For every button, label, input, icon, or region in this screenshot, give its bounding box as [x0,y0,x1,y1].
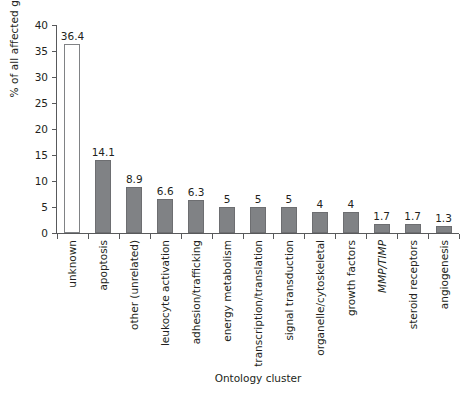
x-axis-tick-mark [212,234,213,239]
y-axis-tick-label: 20 [24,124,48,135]
x-axis-label-slot: growth factors [335,240,366,365]
bar [281,207,297,233]
bar [374,224,390,233]
x-axis-label-slot: transcription/translation [243,240,274,365]
x-axis-category-label: angiogenesis [438,240,450,309]
x-axis-category-label: steroid receptors [407,240,419,329]
bar-value-label: 8.9 [110,173,158,185]
y-axis-tick-label: 35 [24,46,48,57]
bar-chart: % of all affected genes 0510152025303540… [0,0,475,408]
y-axis-tick-label: 0 [24,228,48,239]
x-axis-label-slot: angiogenesis [428,240,459,365]
x-axis-label-slot: organelle/cytoskeletal [304,240,335,365]
x-axis-label-slot: MMP/TIMP [366,240,397,365]
y-axis-tick-label: 30 [24,72,48,83]
x-axis-category-label: MMP/TIMP [376,240,388,293]
y-axis-tick-label: 10 [24,176,48,187]
x-axis-tick-mark [150,234,151,239]
bar [219,207,235,233]
y-axis-tick-mark [52,77,56,78]
y-axis-tick-mark [52,207,56,208]
x-axis-tick-mark [181,234,182,239]
y-axis-tick-mark [52,129,56,130]
y-axis-tick-label: 5 [24,202,48,213]
bar [343,212,359,233]
x-axis-category-labels: unknownapoptosisother (unrelated)leukocy… [57,240,459,365]
x-axis-category-label: organelle/cytoskeletal [314,240,326,356]
bar [405,224,421,233]
y-axis-tick-label: 40 [24,20,48,31]
bar [250,207,266,233]
bar [157,199,173,233]
x-axis-category-label: signal transduction [283,240,295,341]
bar [188,200,204,233]
y-axis-tick-mark [52,51,56,52]
x-axis-label-slot: energy metabolism [212,240,243,365]
x-axis-tick-mark [428,234,429,239]
x-axis-line [56,233,459,234]
x-axis-label-slot: adhesion/trafficking [181,240,212,365]
y-axis-tick-label: 15 [24,150,48,161]
x-axis-tick-mark [335,234,336,239]
x-axis-category-label: energy metabolism [221,240,233,342]
y-axis-title: % of all affected genes [2,0,26,152]
plot-area: 36.414.18.96.66.3555441.71.71.3 [57,25,459,233]
x-axis-title: Ontology cluster [57,372,459,384]
bar-value-label: 1.3 [420,212,468,224]
x-axis-tick-mark [304,234,305,239]
bar [64,44,80,233]
bar-value-label: 14.1 [79,146,127,158]
x-axis-tick-mark [243,234,244,239]
y-axis-tick-labels: 0510152025303540 [24,18,48,240]
bar [126,187,142,233]
x-axis-category-label: leukocyte activation [159,240,171,346]
y-axis-tick-mark [52,155,56,156]
x-axis-label-slot: steroid receptors [397,240,428,365]
y-axis-tick-mark [52,25,56,26]
bar [436,226,452,233]
x-axis-category-label: unknown [66,240,78,288]
x-axis-category-label: transcription/translation [252,240,264,367]
y-axis-tick-mark [52,233,56,234]
x-axis-tick-mark [366,234,367,239]
x-axis-label-slot: other (unrelated) [119,240,150,365]
x-axis-tick-mark [119,234,120,239]
bar-value-label: 4 [327,198,375,210]
x-axis-tick-mark [273,234,274,239]
bar [312,212,328,233]
x-axis-tick-mark [397,234,398,239]
bar-value-label: 36.4 [48,30,96,42]
x-axis-tick-mark [88,234,89,239]
y-axis-tick-mark [52,181,56,182]
x-axis-category-label: adhesion/trafficking [190,240,202,344]
bar [95,160,111,233]
x-axis-category-label: other (unrelated) [128,240,140,330]
x-axis-label-slot: unknown [57,240,88,365]
y-axis-tick-label: 25 [24,98,48,109]
x-axis-category-label: growth factors [345,240,357,316]
y-axis-tick-mark [52,103,56,104]
x-axis-label-slot: signal transduction [273,240,304,365]
x-axis-category-label: apoptosis [97,240,109,291]
x-axis-label-slot: leukocyte activation [150,240,181,365]
x-axis-label-slot: apoptosis [88,240,119,365]
x-axis-tick-mark [459,234,460,239]
x-axis-tick-mark [57,234,58,239]
